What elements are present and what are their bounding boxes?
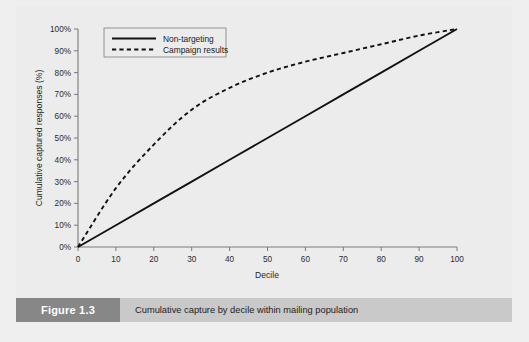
x-tick-label: 40	[225, 255, 235, 264]
x-axis-ticks: 0102030405060708090100	[76, 247, 465, 264]
legend-label-campaign-results: Campaign results	[163, 45, 228, 55]
cumulative-capture-chart: 0%10%20%30%40%50%60%70%80%90%100% 010203…	[16, 6, 512, 291]
chart-legend: Non-targeting Campaign results	[104, 28, 228, 57]
plot-area: 0%10%20%30%40%50%60%70%80%90%100% 010203…	[16, 6, 512, 291]
x-tick-label: 20	[149, 255, 159, 264]
y-tick-label: 0%	[59, 243, 71, 252]
figure-number-label: Figure 1.3	[16, 298, 120, 322]
y-tick-label: 20%	[55, 199, 71, 208]
y-tick-label: 100%	[50, 25, 71, 34]
y-tick-label: 10%	[55, 221, 71, 230]
y-axis-title: Cumulative captured responses (%)	[34, 70, 44, 207]
y-tick-label: 40%	[55, 156, 71, 165]
y-tick-label: 60%	[55, 112, 71, 121]
y-tick-label: 90%	[55, 47, 71, 56]
series-line-non-targeting	[78, 29, 457, 247]
y-tick-label: 70%	[55, 90, 71, 99]
x-tick-label: 10	[111, 255, 121, 264]
x-tick-label: 60	[301, 255, 311, 264]
legend-label-non-targeting: Non-targeting	[163, 34, 214, 44]
y-tick-label: 30%	[55, 178, 71, 187]
x-axis-title: Decile	[255, 270, 279, 280]
x-tick-label: 50	[263, 255, 273, 264]
y-tick-label: 50%	[55, 134, 71, 143]
x-tick-label: 100	[450, 255, 464, 264]
figure-caption-bar: Figure 1.3 Cumulative capture by decile …	[16, 298, 512, 322]
figure-container: 0%10%20%30%40%50%60%70%80%90%100% 010203…	[0, 0, 529, 342]
y-axis-ticks: 0%10%20%30%40%50%60%70%80%90%100%	[50, 25, 78, 252]
x-tick-label: 80	[377, 255, 387, 264]
x-tick-label: 30	[187, 255, 197, 264]
x-tick-label: 90	[415, 255, 425, 264]
series-group	[78, 29, 457, 247]
x-tick-label: 70	[339, 255, 349, 264]
y-tick-label: 80%	[55, 69, 71, 78]
figure-panel: 0%10%20%30%40%50%60%70%80%90%100% 010203…	[16, 6, 512, 322]
x-tick-label: 0	[76, 255, 81, 264]
figure-caption-text: Cumulative capture by decile within mail…	[120, 298, 512, 322]
